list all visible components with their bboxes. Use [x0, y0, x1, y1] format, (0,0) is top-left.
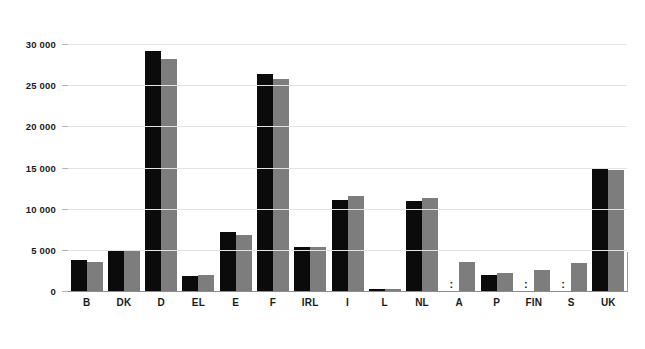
bar [87, 262, 103, 291]
bar [273, 79, 289, 291]
gridline [68, 85, 627, 86]
bar [459, 262, 475, 291]
bar [348, 196, 364, 291]
bar [182, 276, 198, 291]
x-tick-label: EL [178, 297, 218, 308]
y-tick-mark [62, 250, 68, 251]
y-tick-mark [62, 44, 68, 45]
x-tick-label: E [216, 297, 256, 308]
x-tick-label: B [67, 297, 107, 308]
x-tick-label: DK [104, 297, 144, 308]
bar [236, 235, 252, 291]
bar [220, 232, 236, 291]
x-tick-label: F [253, 297, 293, 308]
x-tick-label: IRL [290, 297, 330, 308]
bar [108, 251, 124, 291]
bar [257, 74, 273, 291]
bar [406, 201, 422, 291]
x-tick-label: FIN [514, 297, 554, 308]
x-axis: BDKDELEFIRLILNLAPFINSUK [68, 297, 627, 319]
x-tick-label: A [439, 297, 479, 308]
gridline [68, 168, 627, 169]
bar [198, 275, 214, 291]
not-available-marker: : [558, 279, 568, 289]
bar [71, 260, 87, 291]
y-tick-mark [62, 85, 68, 86]
x-tick-label: UK [588, 297, 628, 308]
bar-chart: 30 00025 00020 00015 00010 0005 0000 :::… [0, 0, 645, 349]
y-tick-label: 25 000 [26, 80, 56, 91]
y-tick-label: 15 000 [26, 162, 56, 173]
y-tick-label: 5 000 [31, 244, 56, 255]
not-available-marker: : [521, 279, 531, 289]
y-tick-mark [62, 209, 68, 210]
y-tick-mark [62, 168, 68, 169]
gridline [68, 126, 627, 127]
x-tick-label: L [365, 297, 405, 308]
not-available-marker: : [446, 279, 456, 289]
bar [422, 198, 438, 291]
bar [332, 200, 348, 291]
gridline [68, 209, 627, 210]
x-tick-label: NL [402, 297, 442, 308]
y-tick-mark [62, 126, 68, 127]
bar [592, 169, 608, 291]
y-tick-label: 20 000 [26, 121, 56, 132]
x-tick-label: I [328, 297, 368, 308]
bar [497, 273, 513, 291]
y-axis: 30 00025 00020 00015 00010 0005 0000 [0, 0, 62, 349]
bar [294, 247, 310, 291]
bar [310, 247, 326, 291]
bar [534, 270, 550, 291]
bar [571, 263, 587, 291]
plot-right-border [627, 252, 628, 292]
bar [608, 170, 624, 291]
axis-line-zero [68, 291, 627, 292]
bar [145, 51, 161, 291]
y-tick-mark [62, 291, 68, 292]
gridline [68, 44, 627, 45]
x-tick-label: P [477, 297, 517, 308]
x-tick-label: S [551, 297, 591, 308]
y-tick-label: 30 000 [26, 39, 56, 50]
x-tick-label: D [141, 297, 181, 308]
bar [481, 275, 497, 291]
bar [124, 251, 140, 291]
y-tick-label: 10 000 [26, 203, 56, 214]
gridline [68, 250, 627, 251]
bar [161, 59, 177, 291]
y-tick-label: 0 [51, 286, 56, 297]
